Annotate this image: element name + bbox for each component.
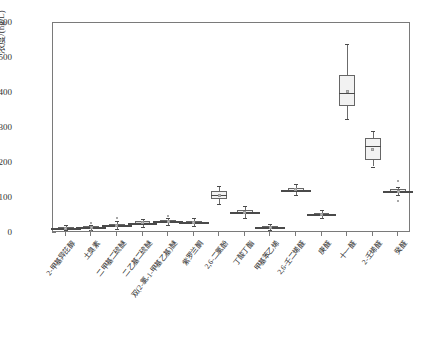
y-tick-label-300: 300 <box>0 122 12 132</box>
y-tick-label-600: 600 <box>0 17 12 27</box>
x-tick-label-12: 2-壬烯醛 <box>358 238 383 266</box>
y-tick-label-0: 0 <box>0 227 12 237</box>
outlier-13-1 <box>397 200 399 202</box>
x-tick-label-10: 庚醛 <box>315 238 332 256</box>
y-tick-label-500: 500 <box>0 52 12 62</box>
x-tick-label-1: 土臭素 <box>80 238 102 261</box>
boxplot-chart: 浓度/(ng/L) 0100200300400500600 2-甲基异芘醇土臭素… <box>0 0 426 340</box>
x-tick-label-11: 十一醛 <box>336 238 358 261</box>
y-tick-label-200: 200 <box>0 157 12 167</box>
plot-area <box>52 22 410 232</box>
cap-upper-13 <box>396 187 400 188</box>
outlier-13-0 <box>397 180 399 182</box>
y-tick-label-100: 100 <box>0 192 12 202</box>
x-tick-label-0: 2-甲基异芘醇 <box>42 238 76 277</box>
cap-lower-13 <box>396 195 400 196</box>
y-tick-label-400: 400 <box>0 87 12 97</box>
y-axis-title: 浓度/(ng/L) <box>0 0 7 92</box>
x-tick-label-6: 2,6-二氯酚 <box>201 238 230 271</box>
mean-marker-13 <box>397 190 400 193</box>
box-13 <box>53 23 411 233</box>
x-tick-label-13: 癸醛 <box>392 238 409 256</box>
x-tick-label-4: 双(2-氯-1-甲基乙基)醚 <box>128 238 179 299</box>
